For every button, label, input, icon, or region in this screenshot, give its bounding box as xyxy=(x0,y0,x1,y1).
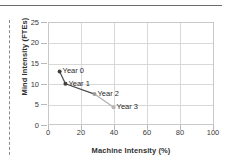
chart-page: Mind Intensity (FTEs) 25 20 15 10 5 0 0 … xyxy=(0,0,228,165)
data-point-label: Year 1 xyxy=(68,79,89,88)
data-point-marker xyxy=(92,92,96,96)
data-point-label: Year 3 xyxy=(117,102,138,111)
data-point-marker xyxy=(112,105,116,109)
data-point-marker xyxy=(58,69,62,73)
data-series-layer xyxy=(0,0,228,165)
data-point-label: Year 2 xyxy=(97,89,118,98)
data-point-marker xyxy=(63,82,67,86)
data-point-label: Year 0 xyxy=(63,66,84,75)
